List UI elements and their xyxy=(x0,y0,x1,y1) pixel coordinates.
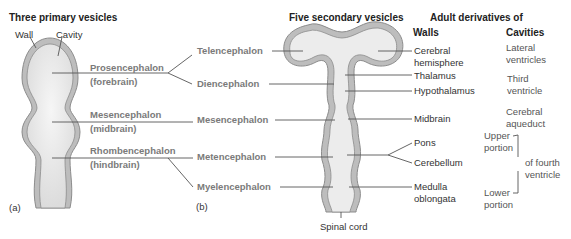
midbrain-label: Midbrain xyxy=(414,114,450,124)
hypothalamus-label: Hypothalamus xyxy=(414,86,475,96)
pons-label: Pons xyxy=(414,138,436,148)
medulla-oblongata-label-2: oblongata xyxy=(414,194,456,204)
fourth-ventricle-label-1: of fourth xyxy=(525,158,560,168)
metencephalon-label: Metencephalon xyxy=(197,152,266,162)
panel-b-title: Five secondary vesicles xyxy=(289,13,404,23)
panel-a-letter: (a) xyxy=(9,203,21,213)
upper-portion-label-2: portion xyxy=(484,143,513,153)
cavity-label: Cavity xyxy=(56,30,82,40)
lower-portion-label-1: Lower xyxy=(484,188,510,198)
adult-derivatives-title: Adult derivatives of xyxy=(430,13,523,23)
midbrain-common-label: (midbrain) xyxy=(90,124,136,134)
cerebellum-label: Cerebellum xyxy=(414,158,463,168)
primary-vesicle-tube xyxy=(22,38,80,208)
lateral-ventricles-label-2: ventricles xyxy=(506,55,546,65)
telencephalon-label: Telencephalon xyxy=(197,46,263,56)
third-ventricle-label-2: ventricle xyxy=(507,86,542,96)
myelencephalon-label: Myelencephalon xyxy=(197,182,271,192)
diencephalon-label: Diencephalon xyxy=(197,79,259,89)
panel-b-letter: (b) xyxy=(196,202,208,212)
prosencephalon-label: Prosencephalon xyxy=(90,63,164,73)
lower-portion-label-2: portion xyxy=(484,200,513,210)
cerebral-hemisphere-label-2: hemisphere xyxy=(414,58,464,68)
mesencephalon-primary-label: Mesencephalon xyxy=(90,110,161,120)
cerebral-aqueduct-label-2: aqueduct xyxy=(506,119,545,129)
upper-portion-label-1: Upper xyxy=(484,131,510,141)
rhombencephalon-label: Rhombencephalon xyxy=(90,146,176,156)
medulla-oblongata-label-1: Medulla xyxy=(414,182,447,192)
fourth-ventricle-label-2: ventricle xyxy=(525,170,560,180)
third-ventricle-label-1: Third xyxy=(507,74,529,84)
hindbrain-label: (hindbrain) xyxy=(90,160,140,170)
forebrain-label: (forebrain) xyxy=(90,77,138,87)
walls-header: Walls xyxy=(413,28,439,38)
wall-label: Wall xyxy=(15,30,33,40)
secondary-vesicle-tube xyxy=(284,22,403,212)
lateral-ventricles-label-1: Lateral xyxy=(506,43,535,53)
cerebral-aqueduct-label-1: Cerebral xyxy=(506,107,542,117)
thalamus-label: Thalamus xyxy=(414,71,456,81)
cerebral-hemisphere-label-1: Cerebral xyxy=(414,46,450,56)
panel-a-title: Three primary vesicles xyxy=(9,13,117,23)
brain-vesicles-diagram: Three primary vesicles Wall Cavity Prose… xyxy=(0,0,571,239)
fourth-ventricle-bracket xyxy=(513,135,518,193)
cavities-header: Cavities xyxy=(506,28,544,38)
spinal-cord-label: Spinal cord xyxy=(320,222,368,232)
mesencephalon-secondary-label: Mesencephalon xyxy=(197,115,268,125)
